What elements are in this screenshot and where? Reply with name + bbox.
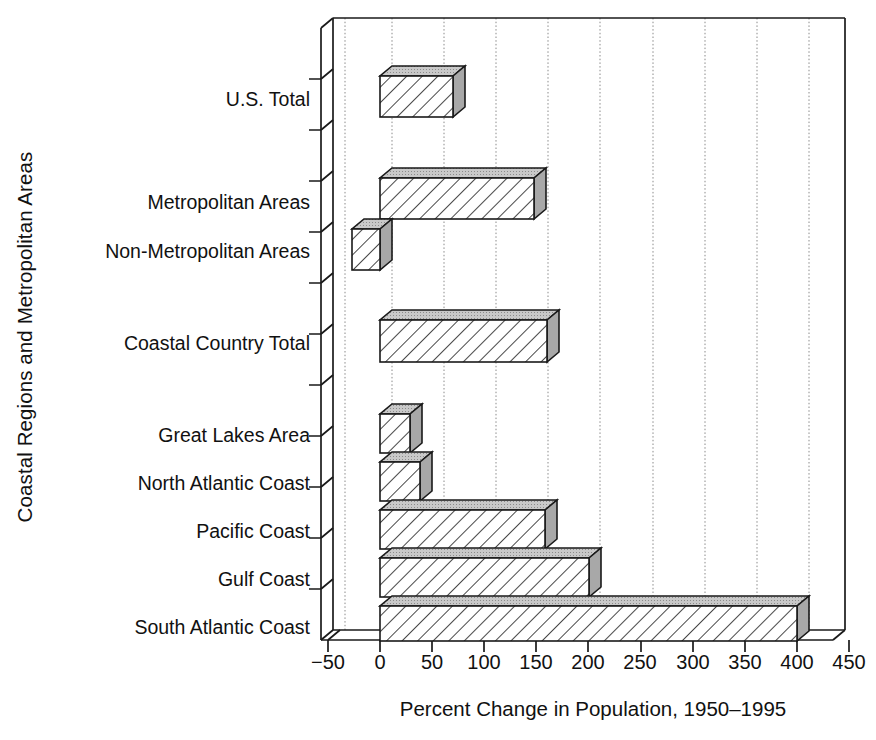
bar-south-atlantic-coast: [380, 596, 809, 641]
bar-north-atlantic-coast: [380, 452, 432, 501]
bar-us-total: [380, 66, 465, 117]
bar-non-metropolitan-areas: [352, 219, 392, 270]
chart-figure: Coastal Regions and Metropolitan Areas P…: [0, 0, 876, 740]
bar-great-lakes-area: [380, 404, 422, 453]
plot-area: [0, 0, 876, 740]
bar-pacific-coast: [380, 500, 557, 549]
bar-metropolitan-areas: [380, 168, 546, 219]
bar-coastal-country-total: [380, 310, 559, 362]
bar-gulf-coast: [380, 548, 601, 597]
